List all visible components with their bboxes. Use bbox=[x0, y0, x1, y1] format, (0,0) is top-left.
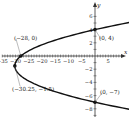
label-leader-line bbox=[16, 39, 21, 56]
x-tick-label: −35 bbox=[0, 58, 8, 64]
parabola-plot: xy−35−30−25−20−15−10−55642−2−4−6−8(−28, … bbox=[0, 0, 129, 117]
x-tick-label: −5 bbox=[78, 58, 86, 64]
x-tick-label: −25 bbox=[23, 58, 34, 64]
y-tick-label: 6 bbox=[89, 13, 92, 19]
point-label: (0, 4) bbox=[99, 35, 114, 41]
y-tick-label: −6 bbox=[85, 93, 93, 99]
y-tick-label: −4 bbox=[85, 79, 93, 85]
x-tick-label: −15 bbox=[50, 58, 61, 64]
x-tick-label: 5 bbox=[107, 58, 110, 64]
y-tick-label: −2 bbox=[85, 66, 93, 72]
y-tick-label: −8 bbox=[85, 106, 93, 112]
x-tick-label: −10 bbox=[63, 58, 74, 64]
data-point bbox=[13, 64, 17, 68]
y-tick-label: 2 bbox=[89, 40, 92, 46]
point-label: (−28, 0) bbox=[14, 35, 37, 41]
x-tick-label: −20 bbox=[37, 58, 48, 64]
point-label: (−30.25, −1.5) bbox=[12, 86, 54, 92]
point-label: (0, −7) bbox=[100, 89, 120, 95]
y-axis-label: y bbox=[96, 1, 101, 9]
plot-canvas: xy−35−30−25−20−15−10−55642−2−4−6−8(−28, … bbox=[0, 0, 129, 117]
x-axis-label: x bbox=[124, 48, 128, 55]
label-leader-line bbox=[15, 66, 20, 86]
